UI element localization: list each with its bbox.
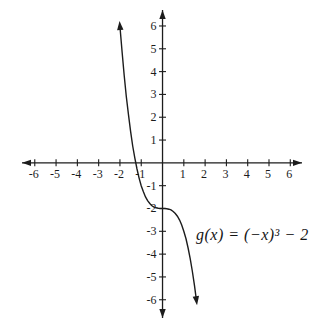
x-tick-label: -4: [71, 167, 81, 181]
y-tick-label: 6: [151, 19, 157, 33]
y-tick-label: -3: [147, 224, 157, 238]
y-axis-bottom-arrowhead: [159, 309, 165, 318]
function-graph-figure: -6-5-4-3-2-1123456-6-5-4-3-2-1123456 g(x…: [0, 0, 322, 325]
y-tick-label: 5: [151, 42, 157, 56]
y-tick-label: 3: [151, 87, 157, 101]
x-tick-label: -3: [93, 167, 103, 181]
y-tick-label: -6: [147, 293, 157, 307]
x-tick-label: 6: [286, 167, 292, 181]
x-tick-label: -2: [114, 167, 124, 181]
y-tick-label: -4: [147, 247, 157, 261]
x-tick-label: -6: [29, 167, 39, 181]
x-axis-left-arrowhead: [22, 160, 31, 166]
curve-bottom-arrowhead: [193, 296, 199, 305]
y-tick-label: 4: [151, 65, 157, 79]
y-tick-label: 2: [151, 110, 157, 124]
function-equation-label: g(x) = (−x)³ − 2: [196, 226, 309, 244]
curve-top-arrowhead: [117, 21, 123, 30]
y-tick-label: -1: [147, 179, 157, 193]
y-tick-label: -5: [147, 270, 157, 284]
y-tick-label: 1: [151, 133, 157, 147]
y-tick-label: -2: [147, 201, 157, 215]
x-axis-right-arrowhead: [293, 160, 302, 166]
x-tick-label: 3: [222, 167, 228, 181]
x-tick-label: -5: [50, 167, 60, 181]
x-tick-label: 5: [265, 167, 271, 181]
y-axis-top-arrowhead: [159, 10, 165, 19]
x-tick-label: 4: [244, 167, 250, 181]
graph-canvas: -6-5-4-3-2-1123456-6-5-4-3-2-1123456: [0, 0, 322, 325]
x-tick-label: 1: [180, 167, 186, 181]
x-tick-label: 2: [201, 167, 207, 181]
